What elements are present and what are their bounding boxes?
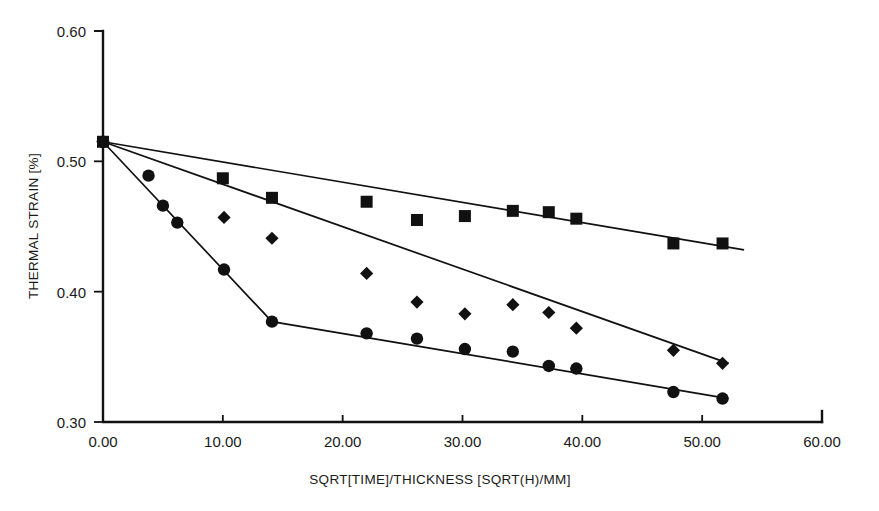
data-point-diamond [217,211,230,224]
data-point-circle [411,332,423,344]
data-point-circle [142,169,154,181]
x-tick-label: 50.00 [683,433,721,450]
data-point-circle [543,360,555,372]
series-square [97,136,729,250]
thermal-strain-scatter-chart: 0.0010.0020.0030.0040.0050.0060.00 0.300… [0,0,879,511]
y-axis-title: THERMAL STRAIN [%] [26,153,41,299]
data-point-diamond [458,307,471,320]
x-axis-tick-labels: 0.0010.0020.0030.0040.0050.0060.00 [88,433,840,450]
axis-spines [103,31,822,422]
data-point-diamond [506,298,519,311]
data-point-circle [459,343,471,355]
x-tick-label: 10.00 [204,433,242,450]
data-point-circle [157,199,169,211]
data-point-diamond [360,267,373,280]
chart-fit-lines [103,142,744,399]
data-point-square [717,237,729,249]
x-tick-label: 40.00 [564,433,602,450]
fit-line-square [103,142,744,250]
chart-data-markers [96,135,729,405]
data-point-square [459,210,471,222]
data-point-diamond [265,232,278,245]
data-point-diamond [570,322,583,335]
data-point-circle [360,327,372,339]
data-point-circle [507,345,519,357]
data-point-circle [570,362,582,374]
data-point-square [543,206,555,218]
data-point-circle [266,315,278,327]
data-point-circle [667,386,679,398]
x-axis-title: SQRT[TIME]/THICKNESS [SQRT(H)/MM] [309,472,570,487]
x-tick-label: 30.00 [444,433,482,450]
data-point-square [411,214,423,226]
chart-axes [94,31,822,422]
y-tick-label: 0.50 [57,153,86,170]
data-point-square [667,237,679,249]
y-tick-label: 0.60 [57,23,86,40]
data-point-diamond [542,306,555,319]
data-point-circle [716,392,728,404]
chart-page: 0.0010.0020.0030.0040.0050.0060.00 0.300… [0,0,879,511]
data-point-square [361,196,373,208]
data-point-circle [97,136,109,148]
data-point-square [266,192,278,204]
data-point-square [570,213,582,225]
y-tick-label: 0.30 [57,414,86,431]
x-tick-label: 60.00 [803,433,841,450]
fit-line-circle [103,142,729,399]
x-tick-label: 20.00 [324,433,362,450]
fit-line-diamond [103,142,729,364]
data-point-diamond [410,295,423,308]
data-point-circle [171,216,183,228]
data-point-square [217,172,229,184]
y-axis-tick-labels: 0.300.400.500.60 [57,23,86,431]
data-point-square [507,205,519,217]
series-circle [97,136,729,405]
y-tick-label: 0.40 [57,284,86,301]
chart-tick-marks [94,31,822,422]
data-point-circle [218,263,230,275]
x-tick-label: 0.00 [88,433,117,450]
